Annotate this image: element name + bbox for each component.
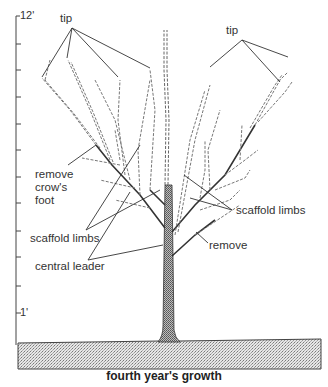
label-remove: remove xyxy=(209,239,247,252)
ruler-bottom-label: 1' xyxy=(20,306,28,318)
label-central-leader: central leader xyxy=(35,260,105,273)
ground xyxy=(18,339,321,369)
trunk xyxy=(158,185,180,342)
figure-caption: fourth year's growth xyxy=(0,369,328,383)
ruler-top-label: 12' xyxy=(20,9,34,21)
label-remove-crows-foot: remove crow's foot xyxy=(35,168,73,207)
label-scaffold-limbs-right: scaffold limbs xyxy=(236,204,305,217)
label-scaffold-limbs-left: scaffold limbs xyxy=(30,232,99,245)
central-leader-growth xyxy=(164,30,169,185)
height-ruler xyxy=(16,16,21,345)
label-tip-right: tip xyxy=(226,24,238,37)
right-scaffold-limbs xyxy=(172,125,255,256)
label-tip-left: tip xyxy=(60,12,72,25)
